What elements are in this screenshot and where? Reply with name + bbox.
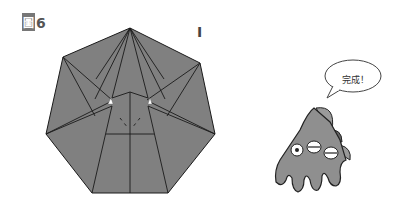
origami-diagram [0, 0, 409, 209]
heptagon-paper [46, 28, 215, 193]
octopus-character [276, 108, 351, 192]
speech-text: 完成！ [342, 73, 369, 86]
